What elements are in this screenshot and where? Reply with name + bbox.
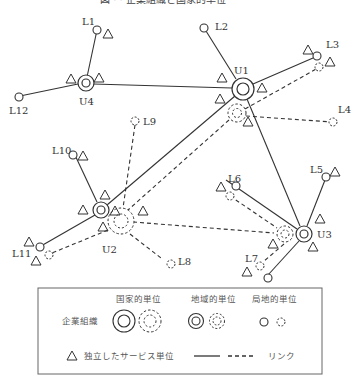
service-unit-icon [330,167,340,176]
service-unit-icon [257,83,267,92]
service-unit-icon [308,242,318,251]
service-unit-icon [78,151,88,160]
node-label-L11: L11 [12,248,31,259]
service-unit-icon [242,267,252,276]
legend-service-unit-label: 独立したサービス単位 [84,351,174,361]
node-label-L1: L1 [82,16,95,27]
service-unit-icon [24,237,34,246]
legend-national-label: 国家的単位 [116,294,161,304]
node-L5 [322,173,330,181]
node-label-L8: L8 [178,256,191,267]
node-label-L7: L7 [245,253,258,264]
service-unit-icon [78,205,88,214]
node-label-L6: L6 [228,173,241,184]
node-L8 [167,260,175,268]
service-unit-icon [103,29,113,38]
node-L11 [36,243,44,251]
legend: 国家的単位 地域的単位 局地的単位 企業組織 独立したサービス単位 リンク [38,288,322,374]
service-unit-icon [66,74,76,83]
service-unit-icon [98,222,108,231]
node-label-L9: L9 [143,116,156,127]
node-L9 [131,117,139,125]
node-label-L4: L4 [338,104,351,115]
node-L3 [313,52,321,60]
node-L7 [264,274,272,282]
figure-title: 図 · · 企業組織と国家的単位 [100,0,226,5]
service-unit-icon [217,73,227,82]
service-unit-icon [325,57,335,66]
node-label-L2: L2 [215,21,228,32]
node-label-U1: U1 [234,65,249,76]
node-label-L10: L10 [52,145,71,156]
node-label-U2: U2 [102,244,117,255]
node-U3-dashed [277,226,293,242]
node-label-U4: U4 [79,96,94,107]
service-unit-icon [94,73,104,82]
service-unit-icon [31,256,41,265]
node-L4 [329,118,337,126]
service-unit-icon [100,190,110,199]
node-L3-dashed [315,63,323,71]
node-U4: U4 [78,75,94,107]
legend-link-label: リンク [268,351,295,361]
service-unit-icon [268,239,278,248]
network-diagram: 図 · · 企業組織と国家的単位 [0,0,358,377]
local-units-dashed [45,63,337,270]
node-label-L3: L3 [326,39,339,50]
node-L2 [200,24,208,32]
legend-local-label: 局地的単位 [252,294,297,304]
node-L6-dashed [226,192,234,200]
legend-row-label: 企業組織 [62,316,98,326]
service-unit-icon [216,182,226,191]
node-label-L12: L12 [9,105,28,116]
node-label-U3: U3 [317,229,332,240]
node-L12 [15,93,23,101]
service-unit-icon [315,214,325,223]
node-L1 [93,26,101,34]
node-L11-dashed [45,251,53,259]
node-label-L5: L5 [310,164,323,175]
service-unit-icon [215,94,225,103]
legend-regional-label: 地域的単位 [191,294,236,304]
node-U3: U3 [296,226,332,242]
service-unit-icon [138,206,148,215]
service-unit-icon [303,45,313,54]
node-U1: U1 [232,65,254,100]
node-U1-dashed [228,104,246,122]
